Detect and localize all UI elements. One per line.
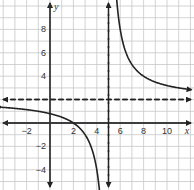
x-tick-label: 6 <box>118 126 123 136</box>
y-tick-label: −4 <box>36 165 46 175</box>
y-tick-label: 8 <box>41 24 46 34</box>
y-tick-label: −2 <box>36 141 46 151</box>
grid-lines <box>0 0 194 190</box>
function-graph: −2246810−4−2468xy <box>0 0 194 190</box>
x-tick-label: 4 <box>94 126 99 136</box>
y-axis-label: y <box>53 1 59 12</box>
x-tick-label: −2 <box>21 126 31 136</box>
x-tick-label: 10 <box>162 126 172 136</box>
x-tick-label: 8 <box>141 126 146 136</box>
x-axis-label: x <box>184 125 190 136</box>
curve-left-branch <box>2 107 104 190</box>
y-tick-label: 6 <box>41 48 46 58</box>
x-tick-label: 2 <box>71 126 76 136</box>
y-tick-label: 4 <box>41 71 46 81</box>
